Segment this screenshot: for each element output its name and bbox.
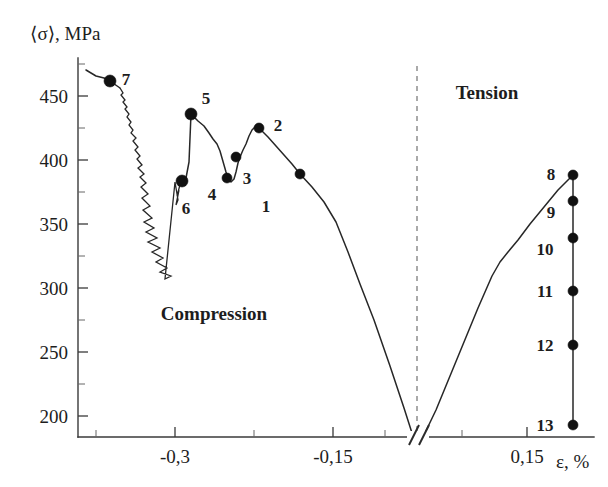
plot-svg: 450 400 350 300 250 200 -0,3 -0,15 0,15 …	[0, 0, 608, 487]
compression-curve-lower	[182, 114, 412, 433]
marker-dot-4	[222, 173, 232, 183]
marker-dot-5	[185, 108, 197, 120]
marker-dot-6	[176, 175, 188, 187]
marker-dot-8	[568, 170, 578, 180]
marker-label-12: 12	[537, 336, 554, 355]
y-tick-label-300: 300	[40, 278, 69, 299]
y-axis-title: ⟨σ⟩, MPa	[30, 23, 101, 44]
y-tick-labels-group: 450 400 350 300 250 200	[40, 86, 69, 427]
marker-label-11: 11	[537, 282, 553, 301]
y-tick-label-400: 400	[40, 150, 69, 171]
compression-label: Compression	[161, 303, 268, 324]
x-axis-title: ε, %	[556, 451, 589, 472]
marker-label-8: 8	[547, 165, 556, 184]
y-ticks-group	[78, 64, 88, 416]
marker-dot-12	[568, 340, 578, 350]
x-tick-label-minus-0-15: -0,15	[313, 446, 353, 467]
marker-label-9: 9	[547, 203, 556, 222]
marker-label-1: 1	[262, 197, 271, 216]
marker-dot-13	[568, 420, 578, 430]
x-tick-label-0-15: 0,15	[510, 446, 543, 467]
marker-dot-2	[254, 123, 264, 133]
marker-label-3: 3	[243, 169, 252, 188]
marker-label-5: 5	[202, 89, 211, 108]
marker-label-4: 4	[208, 185, 217, 204]
tension-label: Tension	[456, 82, 519, 103]
marker-dot-1	[295, 169, 305, 179]
x-tick-label-minus-0-3: -0,3	[160, 446, 190, 467]
marker-dot-11	[568, 286, 578, 296]
marker-label-7: 7	[122, 70, 131, 89]
marker-label-2: 2	[274, 116, 283, 135]
x-ticks-group	[96, 427, 527, 437]
x-tick-labels-group: -0,3 -0,15 0,15	[160, 446, 544, 467]
marker-dot-10	[568, 233, 578, 243]
marker-label-6: 6	[182, 199, 191, 218]
marker-label-10: 10	[537, 240, 554, 259]
marker-dot-3	[231, 152, 241, 162]
marker-label-13: 13	[537, 416, 554, 435]
y-tick-label-250: 250	[40, 342, 69, 363]
marker-label-group: 1 2 3 4 5 6 7 8 9 10 11 12 13	[122, 70, 556, 435]
y-tick-label-450: 450	[40, 86, 69, 107]
marker-dot-7	[104, 75, 116, 87]
axes-group	[78, 58, 594, 437]
stress-strain-chart: 450 400 350 300 250 200 -0,3 -0,15 0,15 …	[0, 0, 608, 487]
compression-curve-serrated	[120, 88, 181, 279]
y-tick-label-350: 350	[40, 214, 69, 235]
marker-dot-9	[568, 196, 578, 206]
y-tick-label-200: 200	[40, 406, 69, 427]
